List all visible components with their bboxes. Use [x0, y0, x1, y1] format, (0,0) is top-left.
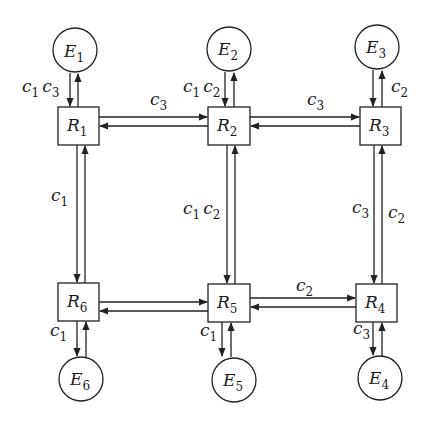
edge-r6-e6: [77, 321, 86, 357]
router-r3: R3: [360, 107, 401, 145]
endpoint-e4: E4: [358, 356, 402, 400]
router-r5: R5: [208, 284, 250, 322]
endpoint-e6: E6: [59, 357, 103, 401]
edge-r5-r4: [250, 298, 356, 307]
label-r1-r2: c3: [150, 89, 167, 113]
label-e3-r3: c2: [391, 76, 408, 100]
label-r5-e5: c1: [200, 320, 217, 344]
edge-r3-r4: [374, 145, 382, 284]
endpoint-e2: E2: [207, 27, 251, 71]
network-diagram: E1 E2 E3 E6 E5 E4 R1 R2 R3 R6 R5: [0, 0, 433, 424]
label-r2-r5: c1c2: [183, 198, 220, 222]
edge-r1-r2: [99, 117, 208, 126]
endpoint-e5: E5: [212, 358, 256, 402]
label-r5-r4: c2: [296, 275, 313, 299]
label-r2-r3: c3: [307, 89, 324, 113]
edge-r2-r3: [250, 117, 360, 126]
endpoint-e1: E1: [53, 28, 97, 72]
label-e1-r1: c1c3: [22, 76, 59, 100]
label-r3-r4-right: c2: [388, 202, 405, 226]
endpoint-e3: E3: [355, 25, 399, 69]
edge-e2-r2: [225, 72, 234, 107]
edge-e3-r3: [373, 70, 382, 107]
router-r4: R4: [356, 284, 397, 322]
label-r6-e6: c1: [50, 320, 67, 344]
edge-r2-r5: [227, 145, 235, 284]
edge-e1-r1: [70, 73, 78, 107]
label-r1-r6: c1: [51, 185, 68, 209]
router-r6: R6: [58, 283, 99, 321]
edge-r1-r6: [77, 145, 85, 283]
router-r1: R1: [58, 107, 99, 145]
label-e2-r2: c1c2: [183, 76, 220, 100]
label-r3-r4-left: c3: [352, 197, 369, 221]
router-r2: R2: [208, 107, 250, 145]
edge-r6-r5: [99, 302, 208, 311]
edge-r4-e4: [373, 322, 382, 356]
edge-r5-e5: [222, 322, 231, 357]
